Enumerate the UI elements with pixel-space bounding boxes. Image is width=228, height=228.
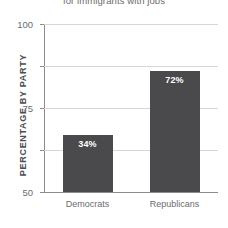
y-tick-label: 100	[17, 19, 33, 30]
chart-title: for immigrants with jobs	[0, 0, 228, 6]
y-tick-mark: 0	[40, 192, 44, 193]
y-tick-mark: 50	[40, 108, 44, 109]
plot-area: 0255075100 34%72% DemocratsRepublicans	[44, 24, 218, 192]
bar-value-label: 34%	[63, 139, 113, 149]
y-tick-mark: 100	[40, 24, 44, 25]
y-axis-title: PERCENTAGE BY PARTY	[18, 30, 28, 200]
x-tick-label-republicans: Republicans	[150, 199, 200, 209]
bar-chart: for immigrants with jobs PERCENTAGE BY P…	[0, 0, 228, 228]
bar-value-label: 72%	[150, 75, 200, 85]
gridline	[44, 66, 218, 67]
bar-democrats[interactable]: 34%	[63, 135, 113, 192]
y-tick-mark: 75	[40, 66, 44, 67]
y-tick-label: 75	[22, 103, 33, 114]
x-axis-line	[44, 192, 218, 193]
gridline	[44, 24, 218, 25]
bar-republicans[interactable]: 72%	[150, 71, 200, 192]
y-tick-label: 50	[22, 187, 33, 198]
y-tick-mark: 25	[40, 150, 44, 151]
x-tick-label-democrats: Democrats	[66, 199, 110, 209]
